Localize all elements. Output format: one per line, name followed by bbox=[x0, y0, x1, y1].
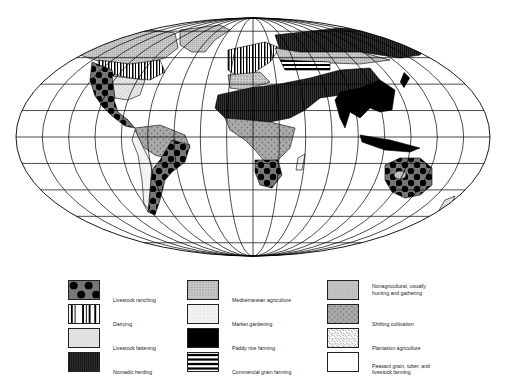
legend-swatch-livestock-ranching bbox=[68, 280, 100, 300]
legend-label: Market gardening bbox=[232, 308, 272, 328]
legend-swatch-shifting-cultivation bbox=[327, 304, 359, 324]
legend-label: Livestock ranching bbox=[113, 284, 156, 304]
legend-item-nonagricultural: Nonagricultural, usually hunting and gat… bbox=[327, 280, 497, 300]
legend-label: Plantation agriculture bbox=[372, 332, 421, 352]
legend-swatch-nomadic-herding bbox=[68, 352, 100, 372]
legend-item-shifting-cultivation: Shifting cultivation bbox=[327, 304, 497, 324]
legend-item-market-gardening: Market gardening bbox=[187, 304, 302, 324]
legend-swatch-commercial-grain bbox=[187, 352, 219, 372]
legend-item-livestock-fattening: Livestock fattening bbox=[68, 328, 183, 348]
legend-item-livestock-ranching: Livestock ranching bbox=[68, 280, 183, 300]
legend-label: Nomadic herding bbox=[113, 356, 152, 376]
legend-item-peasant: Peasant grain, tuber, and livestock farm… bbox=[327, 352, 497, 372]
legend-label: Peasant grain, tuber, and livestock farm… bbox=[372, 356, 430, 376]
legend-swatch-plantation bbox=[327, 328, 359, 348]
legend-item-plantation: Plantation agriculture bbox=[327, 328, 497, 348]
legend-swatch-nonagricultural bbox=[327, 280, 359, 300]
legend-item-nomadic-herding: Nomadic herding bbox=[68, 352, 183, 372]
legend-label: Dairying bbox=[113, 308, 132, 328]
legend-swatch-market-gardening bbox=[187, 304, 219, 324]
legend-item-commercial-grain: Commercial grain farming bbox=[187, 352, 302, 372]
legend-swatch-paddy-rice bbox=[187, 328, 219, 348]
legend-item-paddy-rice: Paddy rice farming bbox=[187, 328, 302, 348]
legend-item-dairying: Dairying bbox=[68, 304, 183, 324]
legend-item-mediterranean: Mediterranean agriculture bbox=[187, 280, 302, 300]
legend-label: Commercial grain farming bbox=[232, 356, 291, 376]
legend-label: Nonagricultural, usually hunting and gat… bbox=[372, 280, 426, 300]
legend-swatch-livestock-fattening bbox=[68, 328, 100, 348]
legend-swatch-dairying bbox=[68, 304, 100, 324]
region-russia-grain bbox=[280, 60, 330, 70]
legend-label: Livestock fattening bbox=[113, 332, 156, 352]
legend-label: Paddy rice farming bbox=[232, 332, 275, 352]
world-map bbox=[0, 0, 509, 268]
legend-swatch-peasant bbox=[327, 352, 359, 372]
legend-label: Mediterranean agriculture bbox=[232, 284, 291, 304]
legend-label: Shifting cultivation bbox=[372, 308, 414, 328]
legend-swatch-mediterranean bbox=[187, 280, 219, 300]
